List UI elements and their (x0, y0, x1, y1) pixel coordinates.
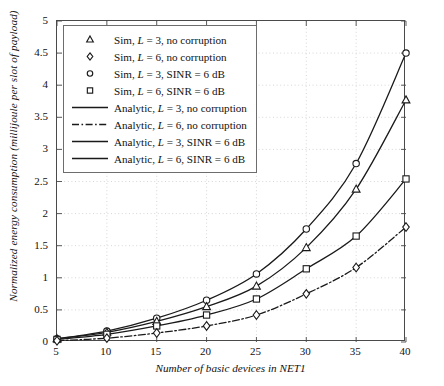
legend-item-5: Analytic, L = 6, no corruption (70, 116, 247, 133)
y-axis-title: Normalized energy consumption (millijoul… (7, 0, 19, 321)
y-tick-4: 4 (22, 78, 48, 90)
data-point-triangle (402, 96, 410, 103)
x-tick-10: 10 (86, 345, 126, 357)
legend-label-5: Analytic, L = 6, no corruption (110, 119, 247, 131)
legend-label-0: Sim, L = 3, no corruption (110, 34, 227, 46)
legend-item-1: Sim, L = 6, no corruption (70, 48, 247, 65)
legend-item-6: Analytic, L = 3, SINR = 6 dB (70, 133, 247, 150)
y-tick-1-5: 1.5 (22, 239, 48, 251)
chart-figure: Normalized energy consumption (millijoul… (0, 0, 444, 386)
x-axis-title: Number of basic devices in NET1 (56, 362, 405, 374)
x-tick-30: 30 (285, 345, 325, 357)
y-tick-3: 3 (22, 142, 48, 154)
data-point-triangle (253, 282, 261, 289)
y-tick-2: 2 (22, 207, 48, 219)
line-solid-icon (70, 150, 110, 167)
y-tick-3-5: 3.5 (22, 110, 48, 122)
marker-triangle-icon (70, 31, 110, 48)
x-tick-15: 15 (136, 345, 176, 357)
y-tick-4-5: 4.5 (22, 46, 48, 58)
line-dashdot-icon (70, 116, 110, 133)
data-point-diamond (403, 223, 410, 232)
legend-item-7: Analytic, L = 6, SINR = 6 dB (70, 150, 247, 167)
data-point-square (353, 233, 359, 239)
data-point-diamond (203, 322, 210, 331)
data-point-diamond (353, 263, 360, 272)
data-point-square (253, 296, 259, 302)
series-line-diamond (57, 227, 406, 341)
series-line-square (57, 179, 406, 340)
line-solid-icon (70, 133, 110, 150)
legend-item-3: Sim, L = 6, SINR = 6 dB (70, 82, 247, 99)
data-point-diamond (303, 290, 310, 299)
x-tick-20: 20 (186, 345, 226, 357)
y-tick-5: 5 (22, 14, 48, 26)
y-tick-1: 1 (22, 271, 48, 283)
data-point-diamond (153, 329, 160, 338)
data-point-square (403, 176, 409, 182)
data-point-circle (303, 226, 309, 232)
marker-circle-icon (70, 65, 110, 82)
legend-label-2: Sim, L = 3, SINR = 6 dB (110, 68, 225, 80)
legend: Sim, L = 3, no corruptionSim, L = 6, no … (63, 25, 257, 173)
legend-label-4: Analytic, L = 3, no corruption (110, 102, 247, 114)
data-point-circle (403, 50, 409, 56)
legend-label-1: Sim, L = 6, no corruption (110, 51, 227, 63)
y-tick-2-5: 2.5 (22, 175, 48, 187)
x-tick-35: 35 (335, 345, 375, 357)
x-tick-25: 25 (235, 345, 275, 357)
data-point-square (203, 312, 209, 318)
series-3 (54, 223, 410, 345)
legend-label-6: Analytic, L = 3, SINR = 6 dB (110, 136, 245, 148)
legend-item-2: Sim, L = 3, SINR = 6 dB (70, 65, 247, 82)
line-solid-icon (70, 99, 110, 116)
data-point-circle (353, 160, 359, 166)
x-tick-40: 40 (385, 345, 425, 357)
marker-square-icon (70, 82, 110, 99)
series-2 (54, 176, 409, 343)
data-point-square (303, 266, 309, 272)
legend-label-7: Analytic, L = 6, SINR = 6 dB (110, 153, 245, 165)
legend-label-3: Sim, L = 6, SINR = 6 dB (110, 85, 225, 97)
data-point-circle (253, 271, 259, 277)
marker-diamond-icon (70, 48, 110, 65)
y-tick-0-5: 0.5 (22, 303, 48, 315)
x-tick-5: 5 (36, 345, 76, 357)
legend-item-4: Analytic, L = 3, no corruption (70, 99, 247, 116)
data-point-diamond (253, 311, 260, 320)
legend-item-0: Sim, L = 3, no corruption (70, 31, 247, 48)
